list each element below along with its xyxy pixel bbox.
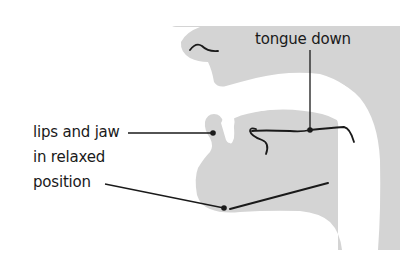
diagram-visible-frame-rect	[28, 25, 185, 114]
label-lips-line2: in relaxed	[33, 145, 105, 170]
label-tongue-down: tongue down	[255, 27, 351, 52]
label-lips-line3: position	[33, 170, 91, 195]
label-lips-line1: lips and jaw	[33, 120, 120, 145]
diagram: tongue down lips and jaw in relaxed posi…	[0, 0, 416, 274]
